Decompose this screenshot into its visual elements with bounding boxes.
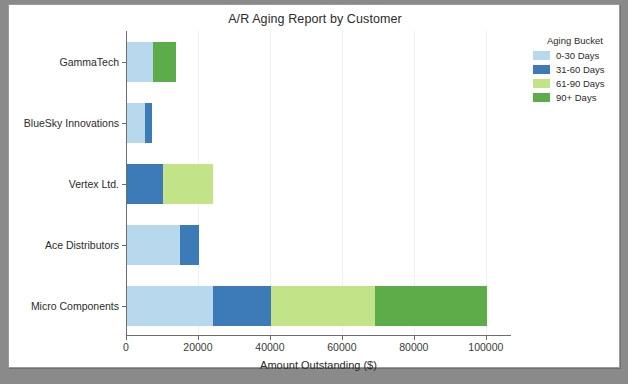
x-axis-tick	[414, 336, 415, 340]
y-axis-tick-label: Vertex Ltd.	[69, 178, 119, 190]
x-axis-tick-label: 100000	[468, 341, 503, 353]
chart-figure: A/R Aging Report by Customer 02000040000…	[8, 4, 620, 368]
y-axis-tick-label: Ace Distributors	[45, 239, 119, 251]
legend-item-label: 90+ Days	[556, 92, 596, 103]
x-axis-tick	[342, 336, 343, 340]
y-axis-line	[126, 31, 127, 336]
bar-segment	[127, 164, 163, 204]
y-axis-tick	[122, 123, 126, 124]
bar-segment	[180, 225, 199, 265]
legend-item: 31-60 Days	[533, 64, 617, 75]
x-axis-tick	[486, 336, 487, 340]
x-axis-label: Amount Outstanding ($)	[126, 359, 511, 371]
legend-item: 61-90 Days	[533, 78, 617, 89]
bar-segment	[213, 286, 271, 326]
x-axis-line	[126, 335, 511, 336]
bar-segment	[271, 286, 375, 326]
chart-title: A/R Aging Report by Customer	[9, 12, 621, 26]
legend-item-label: 0-30 Days	[556, 50, 599, 61]
x-axis-tick	[126, 336, 127, 340]
legend-item-label: 31-60 Days	[556, 64, 605, 75]
x-axis-tick-label: 0	[123, 341, 129, 353]
y-axis-tick	[122, 306, 126, 307]
bar-segment	[127, 286, 213, 326]
plot-area: 020000400006000080000100000 GammaTechBlu…	[126, 31, 511, 336]
bar-segment	[375, 286, 487, 326]
bar-segment	[145, 103, 152, 143]
y-axis-tick-label: Micro Components	[31, 300, 119, 312]
x-axis-tick	[270, 336, 271, 340]
legend-item: 0-30 Days	[533, 50, 617, 61]
x-axis-tick-label: 80000	[399, 341, 428, 353]
x-axis-tick-label: 60000	[327, 341, 356, 353]
bar-segment	[127, 225, 180, 265]
legend-swatch-icon	[533, 79, 550, 88]
bar-segment	[153, 42, 176, 82]
legend-swatch-icon	[533, 65, 550, 74]
legend-item: 90+ Days	[533, 92, 617, 103]
y-axis-tick	[122, 62, 126, 63]
legend-item-label: 61-90 Days	[556, 78, 605, 89]
y-axis-tick-label: GammaTech	[59, 56, 119, 68]
bar-segment	[127, 103, 145, 143]
legend: Aging Bucket 0-30 Days31-60 Days61-90 Da…	[533, 35, 617, 106]
legend-swatch-icon	[533, 51, 550, 60]
bar-segment	[163, 164, 213, 204]
y-axis-tick-label: BlueSky Innovations	[24, 117, 119, 129]
legend-items: 0-30 Days31-60 Days61-90 Days90+ Days	[533, 50, 617, 103]
legend-swatch-icon	[533, 93, 550, 102]
legend-title: Aging Bucket	[533, 35, 617, 46]
x-axis-tick-label: 20000	[183, 341, 212, 353]
y-axis-tick	[122, 245, 126, 246]
bar-segment	[127, 42, 153, 82]
x-axis-tick-label: 40000	[255, 341, 284, 353]
y-axis-tick	[122, 184, 126, 185]
x-axis-tick	[198, 336, 199, 340]
